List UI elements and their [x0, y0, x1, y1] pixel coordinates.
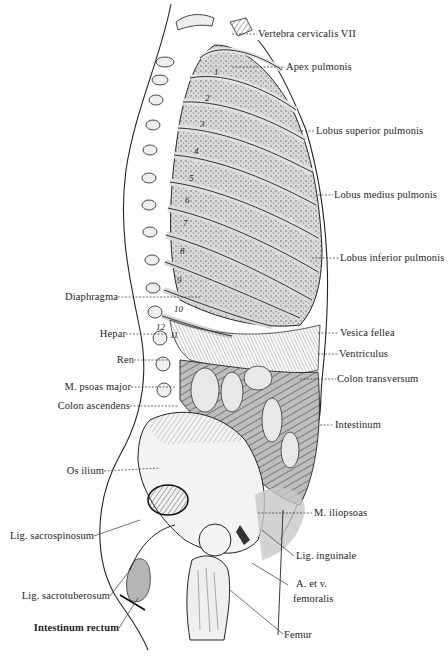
label-lobus-superior-pulmonis: Lobus superior pulmonis: [316, 125, 423, 137]
label-hepar: Hepar: [100, 328, 126, 340]
label-intestinum: Intestinum: [335, 419, 381, 431]
obturator-foramen: [148, 485, 188, 515]
vertebra-c7: [230, 18, 252, 36]
rib-number-10: 10: [174, 304, 183, 314]
label-diaphragma: Diaphragma: [65, 291, 118, 303]
rib-number-2: 2: [205, 93, 210, 103]
label-m-psoas-major: M. psoas major: [65, 381, 131, 393]
label-m-iliopsoas: M. iliopsoas: [314, 507, 367, 519]
label-lig-sacrotuberosum: Lig. sacrotuberosum: [22, 590, 110, 602]
rib-number-5: 5: [189, 173, 194, 183]
rib-number-7: 7: [183, 218, 188, 228]
label-os-ilium: Os ilium: [67, 465, 104, 477]
label-vesica-fellea: Vesica fellea: [340, 327, 395, 339]
femur-shaft: [187, 556, 230, 640]
rib-number-12: 12: [156, 322, 165, 332]
rib-number-9: 9: [177, 275, 182, 285]
label-lobus-inferior-pulmonis: Lobus inferior pulmonis: [340, 252, 444, 264]
rib-number-11: 11: [170, 330, 178, 340]
rib-number-3: 3: [200, 119, 205, 129]
anatomy-figure: Vertebra cervicalis VII Apex pulmonis Lo…: [0, 0, 448, 656]
label-femoralis: femoralis: [293, 593, 334, 605]
label-lig-inguinale: Lig. inguinale: [296, 550, 356, 562]
label-intestinum-rectum: Intestinum rectum: [34, 622, 119, 634]
label-ren: Ren: [117, 354, 134, 366]
rib-number-4: 4: [194, 146, 199, 156]
label-ventriculus: Ventriculus: [339, 348, 388, 360]
label-apex-pulmonis: Apex pulmonis: [286, 61, 352, 73]
label-lobus-medius-pulmonis: Lobus medius pulmonis: [334, 189, 437, 201]
label-vertebra-cervicalis-vii: Vertebra cervicalis VII: [258, 28, 356, 40]
label-lig-sacrospinosum: Lig. sacrospinosum: [10, 530, 94, 542]
rib-number-6: 6: [185, 195, 190, 205]
label-a-et-v: A. et v.: [296, 578, 327, 590]
rib-number-1: 1: [214, 67, 219, 77]
femur-head: [199, 524, 231, 556]
rectum: [127, 559, 151, 602]
label-colon-ascendens: Colon ascendens: [58, 400, 130, 412]
rib-number-8: 8: [180, 246, 185, 256]
label-femur: Femur: [284, 629, 312, 641]
label-colon-transversum: Colon transversum: [337, 373, 418, 385]
